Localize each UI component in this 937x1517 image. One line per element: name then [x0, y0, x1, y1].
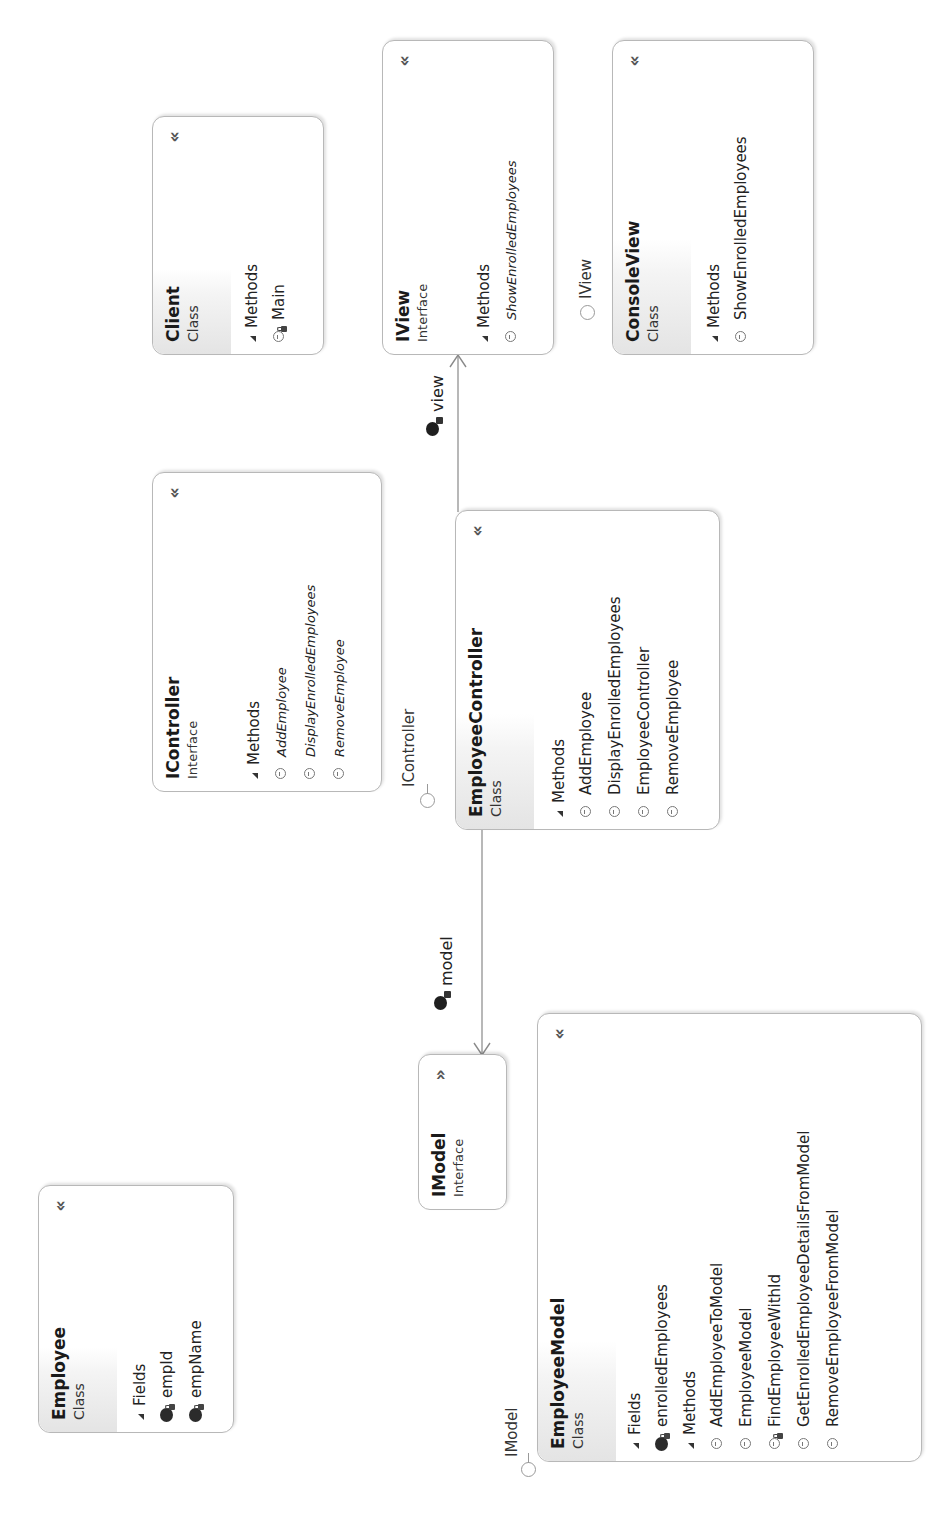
method-icon — [735, 331, 746, 342]
field-item[interactable]: empName — [182, 1186, 211, 1432]
method-icon — [275, 768, 286, 779]
field-icon — [189, 1408, 202, 1422]
class-name: Client — [163, 286, 183, 342]
expand-triangle-icon — [250, 336, 256, 342]
field-icon — [434, 996, 447, 1010]
section-fields[interactable]: Fields — [622, 1014, 648, 1461]
class-kind: Class — [185, 305, 201, 342]
method-item[interactable]: DisplayEnrolledEmployees — [296, 473, 325, 791]
class-box-employeecontroller[interactable]: EmployeeController Class « Methods AddEm… — [455, 510, 720, 830]
class-box-employeemodel[interactable]: EmployeeModel Class « Fields enrolledEmp… — [537, 1013, 922, 1462]
expand-triangle-icon — [557, 811, 563, 817]
class-diagram-canvas: model view Employee Class « Fields empId… — [0, 0, 937, 1517]
collapse-chevron-icon[interactable]: « — [163, 487, 184, 499]
method-icon — [798, 1438, 809, 1449]
class-name: EmployeeModel — [548, 1298, 568, 1449]
section-methods[interactable]: Methods — [677, 1014, 703, 1461]
section-methods[interactable]: Methods — [471, 41, 497, 354]
interface-lollipop-imodel — [521, 1462, 536, 1477]
interface-box-imodel[interactable]: IModel Interface » — [418, 1054, 507, 1210]
method-icon — [580, 806, 591, 817]
collapse-chevron-icon[interactable]: « — [466, 525, 487, 537]
method-item[interactable]: RemoveEmployeeFromModel — [819, 1014, 848, 1461]
interface-name: IView — [393, 290, 413, 342]
method-item[interactable]: DisplayEnrolledEmployees — [601, 511, 630, 829]
collapse-chevron-icon[interactable]: « — [49, 1200, 70, 1212]
method-item[interactable]: RemoveEmployee — [659, 511, 688, 829]
interface-name: IController — [163, 677, 183, 779]
expand-triangle-icon — [633, 1443, 639, 1449]
collapse-chevron-icon[interactable]: « — [623, 55, 644, 67]
field-icon — [160, 1408, 173, 1422]
association-label-model: model — [437, 936, 456, 986]
interface-name: IModel — [429, 1133, 449, 1197]
expand-triangle-icon — [138, 1414, 144, 1420]
method-item[interactable]: Main — [265, 117, 294, 354]
method-item[interactable]: AddEmployee — [572, 511, 601, 829]
class-kind: Class — [645, 305, 661, 342]
field-icon — [426, 422, 439, 436]
method-item[interactable]: ShowEnrolledEmployees — [727, 41, 756, 354]
expand-triangle-icon — [688, 1443, 694, 1449]
class-box-client[interactable]: Client Class « Methods Main — [152, 116, 324, 355]
method-icon — [827, 1438, 838, 1449]
private-lock-icon — [777, 1433, 783, 1439]
method-item[interactable]: EmployeeController — [630, 511, 659, 829]
method-icon — [638, 806, 649, 817]
collapse-chevron-icon[interactable]: « — [393, 55, 414, 67]
expand-triangle-icon — [482, 336, 488, 342]
method-item[interactable]: ShowEnrolledEmployees — [497, 41, 526, 354]
method-icon — [505, 331, 516, 342]
private-lock-icon — [281, 326, 287, 332]
method-item[interactable]: EmployeeModel — [732, 1014, 761, 1461]
class-box-employee[interactable]: Employee Class « Fields empId empName — [38, 1185, 234, 1433]
method-icon — [609, 806, 620, 817]
class-name: ConsoleView — [623, 221, 643, 342]
class-kind: Class — [71, 1383, 87, 1420]
lollipop-label: IModel — [503, 1408, 521, 1457]
method-icon — [273, 331, 284, 342]
method-icon — [740, 1438, 751, 1449]
private-lock-icon — [664, 1433, 670, 1439]
collapse-chevron-icon[interactable]: « — [548, 1028, 569, 1040]
collapse-chevron-icon[interactable]: « — [163, 131, 184, 143]
method-item[interactable]: GetEnrolledEmployeeDetailsFromModel — [790, 1014, 819, 1461]
method-icon — [333, 768, 344, 779]
association-label-view: view — [428, 375, 447, 412]
method-item[interactable]: FindEmployeeWithId — [761, 1014, 790, 1461]
lollipop-label: IView — [577, 259, 595, 299]
section-methods[interactable]: Methods — [546, 511, 572, 829]
class-name: EmployeeController — [466, 628, 486, 817]
class-box-consoleview[interactable]: ConsoleView Class « Methods ShowEnrolled… — [612, 40, 814, 355]
class-name: Employee — [49, 1327, 69, 1420]
method-icon — [711, 1438, 722, 1449]
expand-triangle-icon — [252, 773, 258, 779]
section-fields[interactable]: Fields — [127, 1186, 153, 1432]
expand-chevron-icon[interactable]: » — [429, 1069, 450, 1081]
interface-box-iview[interactable]: IView Interface « Methods ShowEnrolledEm… — [382, 40, 554, 355]
interface-kind: Interface — [451, 1139, 466, 1197]
method-icon — [769, 1438, 780, 1449]
section-methods[interactable]: Methods — [239, 117, 265, 354]
expand-triangle-icon — [712, 336, 718, 342]
private-lock-icon — [169, 1404, 175, 1410]
section-methods[interactable]: Methods — [241, 473, 267, 791]
interface-lollipop-icontroller — [420, 793, 435, 808]
field-icon — [655, 1437, 668, 1451]
method-item[interactable]: RemoveEmployee — [325, 473, 354, 791]
method-icon — [304, 768, 315, 779]
private-lock-icon — [198, 1404, 204, 1410]
private-lock-icon — [436, 417, 443, 424]
section-methods[interactable]: Methods — [701, 41, 727, 354]
field-item[interactable]: empId — [153, 1186, 182, 1432]
private-lock-icon — [444, 991, 451, 998]
interface-kind: Interface — [415, 284, 430, 342]
method-icon — [667, 806, 678, 817]
interface-box-icontroller[interactable]: IController Interface « Methods AddEmplo… — [152, 472, 382, 792]
class-kind: Class — [570, 1412, 586, 1449]
lollipop-label: IController — [400, 709, 418, 787]
interface-lollipop-iview — [580, 305, 595, 320]
method-item[interactable]: AddEmployee — [267, 473, 296, 791]
method-item[interactable]: AddEmployeeToModel — [703, 1014, 732, 1461]
field-item[interactable]: enrolledEmployees — [648, 1014, 677, 1461]
